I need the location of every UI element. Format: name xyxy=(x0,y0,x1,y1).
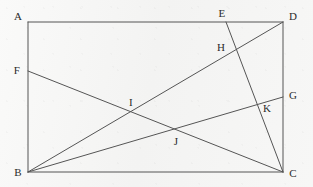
vertex-label-c: C xyxy=(289,168,297,179)
diagonal-b-to-d xyxy=(28,22,283,172)
vertex-label-g: G xyxy=(289,90,297,101)
segment-f-to-c xyxy=(28,71,283,172)
vertex-label-a: A xyxy=(14,11,22,22)
vertex-label-h: H xyxy=(217,42,225,53)
geometry-figure: ABCDEFGHIJK xyxy=(0,0,313,187)
vertex-label-b: B xyxy=(14,167,22,178)
vertex-label-i: I xyxy=(129,97,133,108)
geometry-canvas xyxy=(0,0,313,187)
vertex-label-f: F xyxy=(14,65,20,76)
vertex-label-j: J xyxy=(174,136,178,147)
vertex-label-e: E xyxy=(219,8,226,19)
vertex-label-d: D xyxy=(289,11,297,22)
segment-e-to-c xyxy=(226,22,283,172)
vertex-label-k: K xyxy=(263,103,271,114)
segment-layer xyxy=(28,22,283,172)
segment-b-to-g xyxy=(28,97,283,172)
